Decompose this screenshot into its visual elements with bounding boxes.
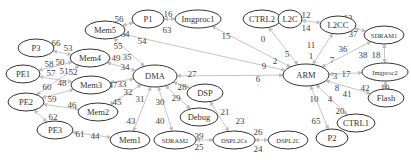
edge-label: 14 [302, 23, 312, 33]
node-label: Mem2 [87, 107, 109, 117]
edge-label: 65 [312, 116, 322, 126]
edge-label: 31 [136, 94, 145, 104]
node-label: CTRL2 [249, 14, 275, 24]
node-ctrl1[interactable]: CTRL1 [337, 114, 375, 132]
node-label: Flash [377, 93, 396, 103]
edge-sdram1-imgproc2 [384, 44, 385, 63]
node-l2cc[interactable]: L2CC [320, 16, 356, 34]
edge-label: 6 [256, 74, 261, 84]
edge-label: 16 [164, 9, 174, 19]
node-label: P3 [32, 43, 41, 53]
node-label: SDRAM2 [162, 137, 188, 144]
node-imgproc1[interactable]: Imgproc1 [175, 10, 221, 28]
node-flash[interactable]: Flash [368, 89, 404, 107]
node-label: L2CC [328, 20, 349, 30]
edge-label: 59 [48, 94, 58, 104]
edge-label: 9 [262, 61, 267, 71]
node-pe1[interactable]: PE1 [6, 65, 40, 83]
edge-label: 55 [114, 41, 124, 51]
edge-label: 57 [47, 68, 57, 78]
edge-label: 43 [127, 116, 137, 126]
edge-label: 12 [302, 10, 311, 20]
node-dspl2cs[interactable]: DSPL2Cs [213, 131, 255, 149]
node-mem2[interactable]: Mem2 [78, 103, 118, 121]
edge-label: 18 [372, 50, 382, 60]
edge-label: 28 [178, 82, 188, 92]
edge-label: 44 [91, 131, 101, 141]
node-pe2[interactable]: PE2 [8, 93, 44, 111]
edge-label: 53 [64, 43, 74, 53]
edge-label: 30 [156, 97, 166, 107]
node-dsp[interactable]: DSP [187, 84, 223, 102]
edge-label: 54 [138, 36, 148, 46]
node-label: ARM [296, 70, 316, 80]
edge-label: 0 [261, 34, 266, 44]
edge-label: 29 [172, 93, 182, 103]
edge-label: 8 [335, 83, 340, 93]
node-label: PE3 [48, 125, 62, 135]
node-p2[interactable]: P2 [316, 129, 348, 147]
node-label: L2C [282, 14, 297, 24]
edge-label: 2 [273, 56, 278, 66]
node-p1[interactable]: P1 [132, 10, 164, 28]
node-label: P2 [328, 133, 337, 143]
node-arm[interactable]: ARM [283, 64, 329, 86]
edge-label: 10 [310, 94, 320, 104]
node-label: DMA [145, 71, 166, 81]
node-debug[interactable]: Debug [180, 108, 218, 126]
node-label: CTRL1 [343, 118, 369, 128]
node-pe3[interactable]: PE3 [37, 121, 73, 139]
node-sdram2[interactable]: SDRAM2 [154, 131, 196, 149]
node-label: Debug [188, 112, 211, 122]
edge-label: 21 [221, 107, 230, 117]
edge-label: 61 [76, 129, 85, 139]
node-l2c[interactable]: L2C [278, 10, 302, 28]
node-label: P1 [144, 14, 153, 24]
edge-label: 48 [58, 78, 68, 88]
edge-label: 38 [359, 50, 369, 60]
edge-label: 51 [60, 66, 69, 76]
node-sdram1[interactable]: SDRAM1 [364, 26, 404, 44]
node-ctrl2[interactable]: CTRL2 [243, 10, 281, 28]
node-label: Mem4 [79, 53, 102, 63]
node-p3[interactable]: P3 [18, 39, 54, 57]
edge-label: 17 [342, 69, 352, 79]
edge-label: 24 [254, 144, 264, 154]
edge-mem5-p1 [122, 23, 133, 26]
edge-label: 60 [43, 82, 53, 92]
node-label: Mem3 [80, 80, 102, 90]
node-label: Mem1 [119, 135, 141, 145]
edge-label: 4 [328, 94, 333, 104]
edge-label: 25 [195, 142, 205, 152]
node-label: Imgproc1 [181, 14, 214, 24]
edge-label: 20 [336, 106, 346, 116]
node-label: PE1 [16, 69, 30, 79]
edge-label: 23 [236, 116, 246, 126]
edge-label: 32 [124, 87, 133, 97]
edge-label: 36 [339, 44, 349, 54]
node-label: Mem5 [94, 25, 116, 35]
node-label: PE2 [19, 97, 33, 107]
node-label: Imgproc2 [372, 69, 397, 76]
edge-label: 45 [113, 97, 123, 107]
edge-label: 41 [343, 89, 352, 99]
node-imgproc2[interactable]: Imgproc2 [362, 63, 408, 81]
edge-label: 35 [123, 52, 133, 62]
edge-label: 3 [333, 71, 338, 81]
edge-label: 52 [69, 67, 78, 77]
edge-label: 27 [188, 69, 198, 79]
edge-label: 40 [156, 116, 166, 126]
node-dspl2c[interactable]: DSPL2C [268, 131, 308, 149]
edge-label: 46 [68, 100, 78, 110]
node-mem4[interactable]: Mem4 [70, 49, 110, 67]
node-mem3[interactable]: Mem3 [71, 76, 111, 94]
edge-label: 5 [285, 49, 290, 59]
edge-pe2-pe3 [34, 110, 46, 122]
edge-label: 1 [309, 51, 314, 61]
node-dma[interactable]: DMA [133, 65, 177, 87]
edge-label: 42 [361, 83, 370, 93]
edge-label: 7 [330, 55, 335, 65]
edge-label: 15 [222, 31, 232, 41]
node-mem1[interactable]: Mem1 [110, 131, 150, 149]
node-mem5[interactable]: Mem5 [85, 21, 125, 39]
